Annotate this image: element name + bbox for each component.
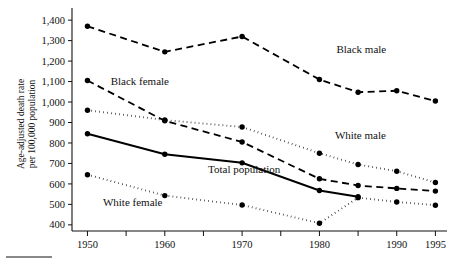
data-point [433, 180, 438, 185]
data-point [85, 108, 90, 113]
y-axis-title: Age-adjusted death rateper 100,000 popul… [16, 79, 37, 169]
data-point [317, 151, 322, 156]
data-point [162, 193, 167, 198]
data-point [85, 172, 90, 177]
data-point [355, 195, 360, 200]
line-chart: Age-adjusted death rateper 100,000 popul… [0, 0, 454, 269]
y-tick-label: 1,300 [41, 35, 65, 46]
data-point [433, 98, 438, 103]
data-point [433, 203, 438, 208]
data-point [317, 176, 322, 181]
x-tick-label: 1995 [425, 239, 446, 250]
y-tick-label: 1,000 [41, 97, 65, 108]
data-point [317, 77, 322, 82]
data-point [239, 34, 244, 39]
y-axis-title-line-2: per 100,000 population [27, 80, 37, 169]
y-tick-label: 600 [49, 179, 65, 190]
data-point [394, 199, 399, 204]
x-tick-label: 1990 [386, 239, 407, 250]
data-point [162, 49, 167, 54]
series-label: White female [103, 196, 163, 208]
series-label: Black female [111, 75, 169, 87]
data-point [394, 186, 399, 191]
chart-container: Age-adjusted death rateper 100,000 popul… [0, 0, 454, 269]
series-label: White male [335, 129, 386, 141]
y-tick-label: 1,200 [41, 56, 65, 67]
x-axis-ticks: 195019601970198019901995 [77, 231, 446, 250]
data-point [85, 131, 90, 136]
y-tick-label: 1,100 [41, 76, 65, 87]
series-line [87, 26, 435, 101]
data-point [239, 139, 244, 144]
data-point [355, 162, 360, 167]
y-tick-label: 800 [49, 138, 65, 149]
data-point [162, 117, 167, 122]
data-point [433, 188, 438, 193]
data-point [239, 124, 244, 129]
x-tick-label: 1950 [77, 239, 98, 250]
data-point [239, 202, 244, 207]
data-point [317, 221, 322, 226]
data-point [394, 169, 399, 174]
y-axis-ticks: 4005006007008009001,0001,1001,2001,3001,… [41, 15, 72, 231]
data-point [355, 90, 360, 95]
x-tick-label: 1980 [309, 239, 330, 250]
y-axis-title-line-1: Age-adjusted death rate [16, 79, 26, 169]
series-label: Total population [208, 163, 281, 175]
data-point [394, 88, 399, 93]
data-point [85, 78, 90, 83]
y-tick-label: 1,400 [41, 15, 65, 26]
data-point [355, 183, 360, 188]
y-tick-label: 500 [49, 199, 65, 210]
x-tick-label: 1970 [232, 239, 253, 250]
y-tick-label: 700 [49, 158, 65, 169]
x-tick-label: 1960 [154, 239, 175, 250]
y-tick-label: 400 [49, 219, 65, 230]
series-label: Black male [336, 43, 386, 55]
data-point [162, 152, 167, 157]
y-tick-label: 900 [49, 117, 65, 128]
data-point [317, 188, 322, 193]
data-point [85, 24, 90, 29]
